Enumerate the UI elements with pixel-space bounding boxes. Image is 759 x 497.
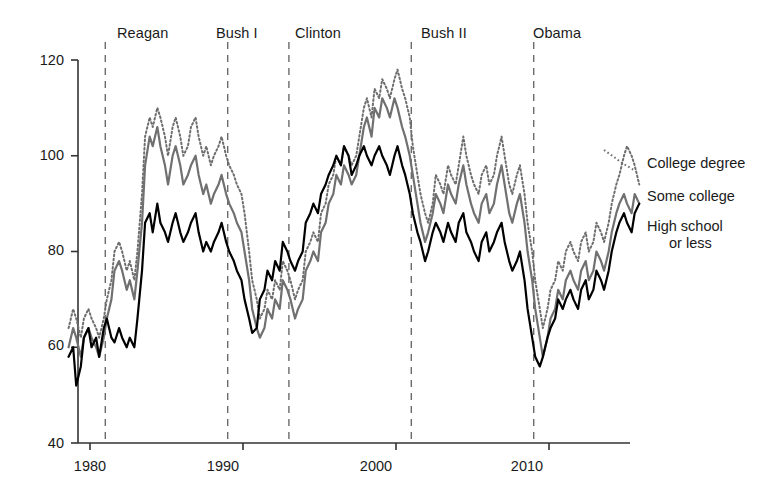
legend-label-high-school-line2: or less [647, 235, 712, 252]
x-tick-label-2000: 2000 [341, 458, 411, 474]
x-tick-label-1990: 1990 [188, 458, 258, 474]
data-series-group [69, 70, 640, 386]
y-tick-label-100: 100 [18, 147, 64, 163]
x-tick-label-1980: 1980 [55, 458, 125, 474]
y-tick-label-40: 40 [18, 435, 64, 451]
plot-area [0, 0, 759, 497]
annotation-label-bush-ii: Bush II [421, 25, 467, 41]
annotation-label-bush-i: Bush I [216, 25, 258, 41]
y-tick-label-60: 60 [18, 337, 64, 353]
annotation-label-reagan: Reagan [117, 25, 168, 41]
annotation-label-obama: Obama [533, 25, 581, 41]
series-line-college-degree [69, 70, 640, 338]
legend-label-high-school: High school or less [647, 218, 723, 252]
y-tick-label-120: 120 [18, 52, 64, 68]
y-tick-label-80: 80 [18, 242, 64, 258]
figure-chart: Reagan Bush I Clinton Bush II Obama 120 … [0, 0, 759, 497]
annotation-label-clinton: Clinton [295, 25, 341, 41]
x-tick-label-2010: 2010 [492, 458, 562, 474]
legend-label-college-degree: College degree [647, 155, 745, 172]
legend-label-some-college: Some college [647, 188, 735, 205]
legend-label-high-school-line1: High school [647, 218, 723, 234]
